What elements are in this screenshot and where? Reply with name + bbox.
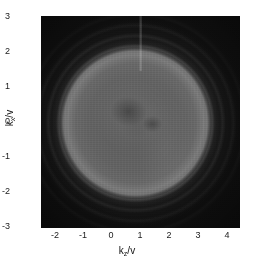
momentum-distribution-figure: 3 2 1 0 -1 -2 -3 -2 -1 0 1 2 3 4 kz/v kx… (0, 0, 254, 267)
x-axis-label-tail: /v (127, 245, 135, 256)
x-tick-label: -2 (40, 231, 70, 240)
y-tick-label: -3 (0, 222, 10, 231)
x-tick-label: -1 (68, 231, 98, 240)
plot-area (41, 16, 240, 228)
x-tick-label: 1 (125, 231, 155, 240)
y-tick-label: 2 (0, 47, 10, 56)
x-tick-label: 0 (96, 231, 126, 240)
x-tick-label: 3 (183, 231, 213, 240)
x-axis-label: kz/v (0, 245, 254, 257)
y-axis-label-subscript: x (9, 118, 16, 122)
y-axis-label-main: k (4, 121, 15, 126)
y-tick-label: 3 (0, 12, 10, 21)
y-tick-label: -2 (0, 187, 10, 196)
y-axis-label: kx/v (4, 88, 16, 148)
x-tick-label: 4 (212, 231, 242, 240)
y-axis-label-tail: /v (4, 110, 15, 118)
y-tick-label: -1 (0, 152, 10, 161)
vignette-layer (41, 16, 240, 228)
x-tick-label: 2 (154, 231, 184, 240)
